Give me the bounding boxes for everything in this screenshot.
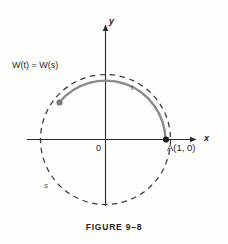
arc-t-path: [59, 81, 165, 140]
arc-s-label: s: [44, 182, 48, 190]
point-a-label: A(1, 0): [167, 143, 196, 153]
x-axis-label: x: [204, 134, 209, 143]
unit-circle-diagram: [0, 0, 228, 244]
arc-t-label: t: [131, 84, 133, 92]
point-w-dot: [56, 99, 62, 105]
figure-caption: FIGURE 9–8: [0, 222, 228, 232]
figure-container: y x 0 A(1, 0) W(t) = W(s) t s FIGURE 9–8: [0, 0, 228, 244]
point-w-label: W(t) = W(s): [12, 61, 58, 70]
origin-label: 0: [96, 144, 101, 153]
y-axis-label: y: [109, 17, 114, 26]
